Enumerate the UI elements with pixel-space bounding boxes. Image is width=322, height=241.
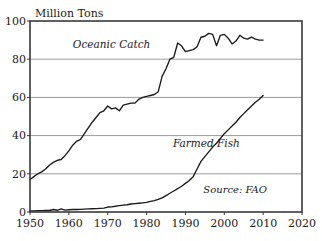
source-label: Source: FAO [203, 184, 267, 195]
x-tick-label: 2010 [249, 217, 277, 230]
x-tick-label: 2000 [210, 217, 238, 230]
x-tick-label: 1980 [133, 217, 161, 230]
chart-background [0, 0, 322, 241]
x-tick-label: 1950 [16, 217, 44, 230]
x-tick-label: 2020 [288, 217, 316, 230]
farmed-fish-label: Farmed Fish [172, 137, 240, 149]
x-tick-label: 1990 [171, 217, 199, 230]
x-tick-label: 1960 [55, 217, 83, 230]
y-axis-title: Million Tons [35, 7, 104, 20]
oceanic-catch-label: Oceanic Catch [73, 38, 150, 50]
y-tick-label: 20 [12, 168, 26, 181]
y-tick-label: 80 [12, 53, 26, 66]
chart-canvas: 020406080100 195019601970198019902000201… [0, 0, 322, 241]
y-tick-label: 100 [5, 15, 26, 28]
y-tick-label: 60 [12, 91, 26, 104]
x-tick-label: 1970 [94, 217, 122, 230]
fish-production-chart: 020406080100 195019601970198019902000201… [0, 0, 322, 241]
y-tick-label: 40 [12, 129, 26, 142]
